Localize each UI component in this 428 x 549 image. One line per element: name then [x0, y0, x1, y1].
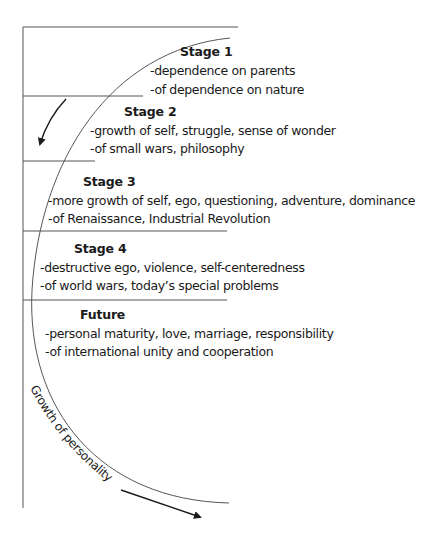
stage-4-title: Stage 4 — [74, 241, 127, 256]
future-title: Future — [80, 307, 125, 322]
curve-label: Growth of personality — [27, 383, 115, 485]
stage-1-line-2: -of dependence on nature — [150, 82, 304, 97]
stage-1-title: Stage 1 — [180, 44, 233, 59]
stage-1-line-1: -dependence on parents — [150, 63, 295, 78]
stage-2-title: Stage 2 — [124, 104, 177, 119]
stage-3-line-1: -more growth of self, ego, questioning, … — [48, 193, 415, 208]
future-line-1: -personal maturity, love, marriage, resp… — [45, 326, 333, 341]
stage-3-title: Stage 3 — [83, 174, 136, 189]
stage-2-line-2: -of small wars, philosophy — [90, 141, 244, 156]
stage-4-line-1: -destructive ego, violence, self-centere… — [40, 260, 305, 275]
future-line-2: -of international unity and cooperation — [45, 344, 273, 359]
stage-2-line-1: -growth of self, struggle, sense of wond… — [90, 123, 336, 138]
curved-arrow-down-left-icon — [40, 99, 66, 144]
stage-3-line-2: -of Renaissance, Industrial Revolution — [48, 211, 270, 226]
curved-arrow-right-icon — [121, 490, 200, 517]
stage-4-line-2: -of world wars, today’s special problems — [40, 278, 278, 293]
curve-label-text: Growth of personality — [27, 383, 115, 485]
